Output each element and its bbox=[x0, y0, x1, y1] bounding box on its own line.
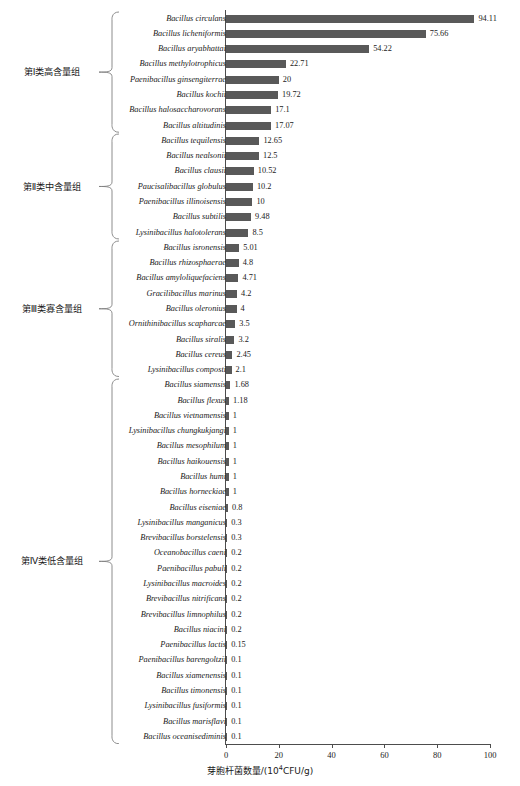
bar-value-label: 0.2 bbox=[231, 565, 241, 573]
chart-row: Bacillus haikouensis1 bbox=[0, 454, 520, 469]
chart-row: Paenibacillus barengoltzii0.1 bbox=[0, 653, 520, 668]
bar-value-label: 0.1 bbox=[231, 702, 241, 710]
species-label: Bacillus oceanisediminis bbox=[143, 733, 226, 741]
bar-value-label: 54.22 bbox=[373, 45, 392, 53]
bar bbox=[226, 122, 271, 130]
bar bbox=[226, 381, 230, 389]
bar bbox=[226, 641, 227, 649]
species-label: Bacillus xiamenensis bbox=[156, 672, 226, 680]
bar bbox=[226, 366, 232, 374]
species-label: Paenibacillus ginsengiterrae bbox=[130, 76, 226, 84]
chart-row: Bacillus vietnamensis1 bbox=[0, 408, 520, 423]
species-label: Gracilibacillus marinus bbox=[146, 290, 226, 298]
bar-value-label: 0.2 bbox=[231, 549, 241, 557]
species-label: Bacillus circulans bbox=[166, 14, 226, 22]
x-tick-label: 60 bbox=[380, 750, 389, 760]
chart-row: Bacillus halosaccharovorans17.1 bbox=[0, 103, 520, 118]
bar bbox=[226, 198, 252, 206]
chart-row: Bacillus cereus2.45 bbox=[0, 347, 520, 362]
bar-value-label: 4.2 bbox=[241, 290, 251, 298]
x-tick-label: 80 bbox=[433, 750, 442, 760]
bar-value-label: 0.3 bbox=[231, 519, 241, 527]
bar-value-label: 75.66 bbox=[430, 30, 449, 38]
species-label: Bacillus niacini bbox=[174, 626, 226, 634]
bar-value-label: 22.71 bbox=[290, 60, 309, 68]
bar-value-label: 4.8 bbox=[243, 259, 253, 267]
x-tick-label: 40 bbox=[327, 750, 336, 760]
chart-row: Paenibacillus pabuli0.2 bbox=[0, 561, 520, 576]
chart-row: Bacillus licheniformis75.66 bbox=[0, 26, 520, 41]
chart-row: Bacillus oceanisediminis0.1 bbox=[0, 729, 520, 744]
chart-row: Bacillus oleronius4 bbox=[0, 301, 520, 316]
bar-value-label: 10 bbox=[256, 198, 264, 206]
species-label: Lysinibacillus fusiformis bbox=[144, 702, 226, 710]
bar-value-label: 2.45 bbox=[236, 351, 251, 359]
bar bbox=[226, 534, 227, 542]
x-tick-mark bbox=[490, 745, 491, 748]
species-label: Bacillus eiseniae bbox=[170, 503, 226, 511]
bar-value-label: 20 bbox=[283, 76, 291, 84]
bar bbox=[226, 519, 227, 527]
chart-row: Lysinibacillus fusiformis0.1 bbox=[0, 699, 520, 714]
bar bbox=[226, 336, 234, 344]
bar bbox=[226, 656, 227, 664]
bar bbox=[226, 45, 369, 53]
chart-row: Bacillus kochii19.72 bbox=[0, 87, 520, 102]
species-label: Bacillus halosaccharovorans bbox=[129, 106, 226, 114]
bar bbox=[226, 549, 227, 557]
bar-value-label: 0.15 bbox=[231, 641, 246, 649]
bar-value-label: 17.1 bbox=[275, 106, 290, 114]
species-label: Bacillus isronensis bbox=[163, 244, 226, 252]
x-tick-label: 100 bbox=[484, 750, 497, 760]
chart-row: Brevibacillus limnophilus0.2 bbox=[0, 607, 520, 622]
chart-row: Bacillus rhizosphaerae4.8 bbox=[0, 255, 520, 270]
plot-area: 020406080100 芽胞杆菌数量/(104CFU/g) Bacillus … bbox=[0, 0, 520, 786]
species-label: Bacillus subtilis bbox=[173, 213, 226, 221]
chart-row: Paenibacillus ginsengiterrae20 bbox=[0, 72, 520, 87]
bar-value-label: 1 bbox=[233, 488, 237, 496]
bar-value-label: 0.2 bbox=[231, 610, 241, 618]
bar-value-label: 12.5 bbox=[263, 152, 278, 160]
bar-value-label: 3.5 bbox=[239, 320, 249, 328]
bar-value-label: 1.18 bbox=[233, 396, 248, 404]
species-label: Bacillus haikouensis bbox=[158, 458, 226, 466]
chart-row: Paucisalibacillus globulus10.2 bbox=[0, 179, 520, 194]
bar bbox=[226, 152, 259, 160]
bar bbox=[226, 229, 248, 237]
x-tick-mark bbox=[437, 745, 438, 748]
chart-row: Brevibacillus borstelensis0.3 bbox=[0, 531, 520, 546]
bar-value-label: 10.52 bbox=[258, 167, 277, 175]
chart-row: Bacillus circulans94.11 bbox=[0, 11, 520, 26]
bar bbox=[226, 442, 229, 450]
bar-value-label: 1 bbox=[233, 458, 237, 466]
species-label: Bacillus cereus bbox=[175, 351, 226, 359]
bar-value-label: 17.07 bbox=[275, 121, 294, 129]
x-tick-mark bbox=[279, 745, 280, 748]
x-tick-mark bbox=[384, 745, 385, 748]
chart-row: Bacillus amyloliquefaciens4.71 bbox=[0, 271, 520, 286]
bar bbox=[226, 106, 271, 114]
species-label: Paenibacillus lactis bbox=[160, 641, 226, 649]
species-label: Bacillus aryabhattai bbox=[158, 45, 226, 53]
bar-value-label: 1 bbox=[233, 427, 237, 435]
species-label: Bacillus humi bbox=[180, 473, 226, 481]
bar-value-label: 1 bbox=[233, 473, 237, 481]
species-label: Brevibacillus limnophilus bbox=[141, 610, 226, 618]
bar-value-label: 0.1 bbox=[231, 717, 241, 725]
bar-value-label: 4 bbox=[241, 305, 245, 313]
bar-value-label: 1 bbox=[233, 412, 237, 420]
species-label: Bacillus timonensis bbox=[161, 687, 226, 695]
chart-row: Lysinibacillus halotolerans8.5 bbox=[0, 225, 520, 240]
bar bbox=[226, 702, 227, 710]
bar-value-label: 19.72 bbox=[282, 91, 301, 99]
chart-row: Lysinibacillus manganicus0.3 bbox=[0, 515, 520, 530]
chart-row: Bacillus siralis3.2 bbox=[0, 332, 520, 347]
bar bbox=[226, 595, 227, 603]
chart-row: Ornithinibacillus scapharcae3.5 bbox=[0, 317, 520, 332]
bar-value-label: 9.48 bbox=[255, 213, 270, 221]
bar bbox=[226, 626, 227, 634]
bar bbox=[226, 672, 227, 680]
x-axis-line bbox=[225, 744, 491, 745]
chart-row: Bacillus altitudinis17.07 bbox=[0, 118, 520, 133]
species-label: Lysinibacillus chungkukjangi bbox=[129, 427, 226, 435]
